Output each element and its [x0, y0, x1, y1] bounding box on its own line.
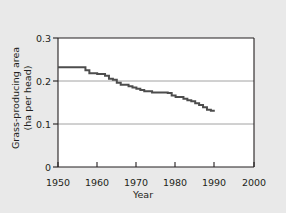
y-axis-title: Grass-producing area (ha per head) [10, 28, 33, 168]
ytick-label-0.1: 0.1 [36, 119, 51, 130]
xtick-label-1980: 1980 [163, 177, 187, 188]
y-axis-title-wrapper: Grass-producing area (ha per head) [10, 28, 36, 168]
figure-inner-panel: 0.3 0.2 0.1 0 1950 1960 1970 1980 1990 2… [7, 6, 279, 207]
plot-area-background [58, 38, 254, 167]
y-tick-marks [53, 38, 58, 167]
x-axis-title: Year [0, 189, 286, 200]
y-axis-title-line2: (ha per head) [22, 28, 34, 168]
ytick-label-0.3: 0.3 [36, 33, 51, 44]
xtick-label-2000: 2000 [242, 177, 266, 188]
xtick-label-1990: 1990 [202, 177, 226, 188]
xtick-label-1950: 1950 [46, 177, 70, 188]
y-axis-title-line1: Grass-producing area [10, 28, 22, 168]
ytick-label-0: 0 [45, 162, 51, 173]
ytick-label-0.2: 0.2 [36, 76, 51, 87]
xtick-label-1960: 1960 [85, 177, 109, 188]
chart-figure: 0.3 0.2 0.1 0 1950 1960 1970 1980 1990 2… [0, 0, 286, 213]
xtick-label-1970: 1970 [124, 177, 148, 188]
